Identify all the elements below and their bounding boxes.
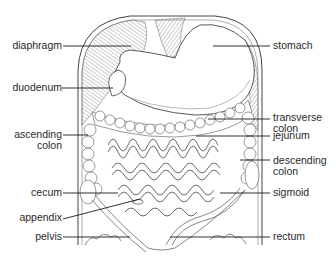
ascending-colon-shape	[80, 124, 102, 204]
label-ascending-colon-line2: colon	[14, 140, 62, 151]
pelvis-shape	[85, 190, 246, 252]
label-descending-colon: descending colon	[273, 155, 327, 177]
label-sigmoid: sigmoid	[273, 187, 309, 198]
label-cecum: cecum	[31, 187, 62, 198]
label-descending-colon-line2: colon	[273, 166, 327, 177]
label-rectum: rectum	[273, 231, 305, 242]
label-pelvis: pelvis	[35, 231, 62, 242]
digestive-system-diagram: diaphragm duodenum ascending colon cecum…	[0, 0, 336, 260]
label-duodenum: duodenum	[12, 82, 62, 93]
label-diaphragm: diaphragm	[12, 40, 62, 51]
label-ascending-colon: ascending colon	[14, 129, 62, 151]
small-intestine-shape	[108, 139, 220, 216]
label-appendix: appendix	[19, 212, 62, 223]
label-stomach: stomach	[273, 40, 313, 51]
label-jejunum: jejunum	[273, 130, 310, 141]
